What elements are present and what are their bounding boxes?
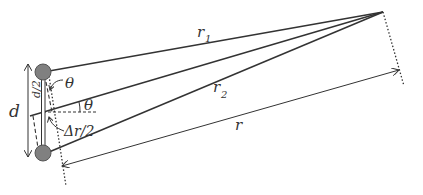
bottom-source-circle xyxy=(35,145,51,161)
far-point-perpendicular-dotted xyxy=(383,12,404,86)
label-theta-top: θ xyxy=(65,74,74,92)
top-source-circle xyxy=(35,64,51,80)
label-r1: r xyxy=(197,23,205,41)
theta-angle-arc xyxy=(79,102,80,112)
theta-top-leader xyxy=(50,80,63,90)
path-difference-diagram: r 1 r 2 r d d/2 θ θ Δr/2 xyxy=(0,0,423,195)
lower-dashed-line xyxy=(33,116,38,148)
delta-r-half-leader xyxy=(49,117,64,131)
label-r2: r xyxy=(213,78,221,96)
label-r2-subscript: 2 xyxy=(220,89,227,100)
label-r1-subscript: 1 xyxy=(205,33,211,44)
r-distance-arrow xyxy=(62,70,399,166)
label-d: d xyxy=(9,101,20,121)
label-delta-r-half: Δr/2 xyxy=(63,123,95,139)
label-r: r xyxy=(235,116,243,134)
ray-central xyxy=(30,12,383,116)
label-theta-mid: θ xyxy=(84,96,93,114)
label-half-d: d/2 xyxy=(30,80,43,98)
ray-r1 xyxy=(49,12,383,71)
